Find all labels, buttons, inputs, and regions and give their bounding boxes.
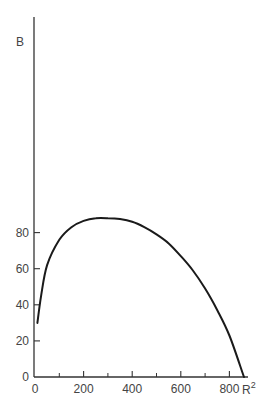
y-axis-label: B bbox=[16, 35, 24, 49]
x-tick-label: 200 bbox=[74, 382, 94, 396]
x-tick-label: 0 bbox=[32, 382, 39, 396]
x-tick-label: 400 bbox=[122, 382, 142, 396]
axes bbox=[34, 17, 248, 377]
y-tick-label: 0 bbox=[22, 370, 29, 384]
y-tick-label: 20 bbox=[16, 334, 30, 348]
x-tick-label: 800 bbox=[219, 382, 239, 396]
data-curve bbox=[37, 218, 244, 377]
y-ticks: 020406080 bbox=[16, 226, 40, 384]
y-tick-label: 60 bbox=[16, 262, 30, 276]
x-axis-label-base: R bbox=[242, 383, 251, 397]
y-tick-label: 80 bbox=[16, 226, 30, 240]
x-axis-label-superscript: 2 bbox=[251, 380, 256, 390]
y-tick-label: 40 bbox=[16, 298, 30, 312]
x-ticks: 0200400600800 bbox=[32, 371, 240, 396]
x-axis-label: R2 bbox=[242, 380, 256, 397]
x-tick-label: 600 bbox=[171, 382, 191, 396]
chart-canvas: 020406080 0200400600800 B R2 bbox=[0, 0, 271, 405]
